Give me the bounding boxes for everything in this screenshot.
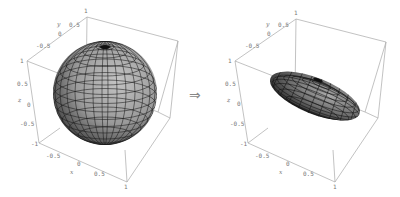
svg-text:0: 0 (237, 100, 241, 107)
svg-text:-0.5: -0.5 (245, 42, 260, 49)
svg-text:0: 0 (27, 101, 31, 108)
svg-text:z: z (226, 96, 231, 103)
svg-text:-0.5: -0.5 (230, 120, 245, 127)
sphere-surface (53, 41, 157, 145)
ellipsoid-surface (264, 61, 368, 133)
x-axis-ticks: -0.5 0 0.5 1 x (255, 152, 337, 190)
svg-text:0: 0 (58, 30, 62, 37)
x-axis-ticks: -0.5 0 0.5 1 x (46, 152, 128, 190)
svg-text:-1: -1 (240, 140, 248, 147)
svg-text:0: 0 (77, 160, 81, 167)
svg-text:1: 1 (20, 57, 24, 64)
svg-text:0.5: 0.5 (303, 170, 314, 177)
y-axis-ticks: 1 0.5 0 -0.5 y (36, 7, 88, 49)
svg-text:0: 0 (267, 30, 271, 37)
svg-text:z: z (17, 96, 22, 103)
svg-text:1: 1 (124, 183, 128, 190)
svg-text:0.5: 0.5 (94, 170, 105, 177)
svg-text:1: 1 (84, 7, 88, 14)
svg-text:0.5: 0.5 (225, 80, 236, 87)
svg-text:1: 1 (228, 57, 232, 64)
svg-text:y: y (265, 20, 270, 28)
svg-text:1: 1 (333, 183, 337, 190)
svg-text:-0.5: -0.5 (20, 120, 35, 127)
figure: 1 0.5 0 -0.5 y 1 0.5 0 -0.5 -1 z -0.5 0 … (0, 0, 400, 197)
ellipsoid-plot: 1 0.5 0 -0.5 y 1 0.5 0 -0.5 -1 z -0.5 0 … (200, 0, 400, 197)
transform-arrow-icon: ⇒ (189, 88, 201, 102)
svg-text:-0.5: -0.5 (255, 152, 270, 159)
z-axis-ticks: 1 0.5 0 -0.5 -1 z (17, 57, 39, 147)
svg-text:x: x (70, 168, 74, 175)
svg-text:0: 0 (286, 160, 290, 167)
svg-text:0.5: 0.5 (17, 80, 28, 87)
svg-text:-0.5: -0.5 (46, 152, 61, 159)
svg-text:-0.5: -0.5 (36, 42, 51, 49)
svg-text:0.5: 0.5 (278, 21, 289, 28)
svg-text:-1: -1 (31, 140, 39, 147)
svg-text:0.5: 0.5 (69, 21, 80, 28)
svg-text:1: 1 (294, 9, 298, 16)
sphere-plot: 1 0.5 0 -0.5 y 1 0.5 0 -0.5 -1 z -0.5 0 … (0, 0, 200, 197)
svg-text:y: y (56, 20, 61, 28)
svg-text:x: x (279, 168, 283, 175)
y-axis-ticks: 1 0.5 0 -0.5 y (245, 9, 298, 49)
